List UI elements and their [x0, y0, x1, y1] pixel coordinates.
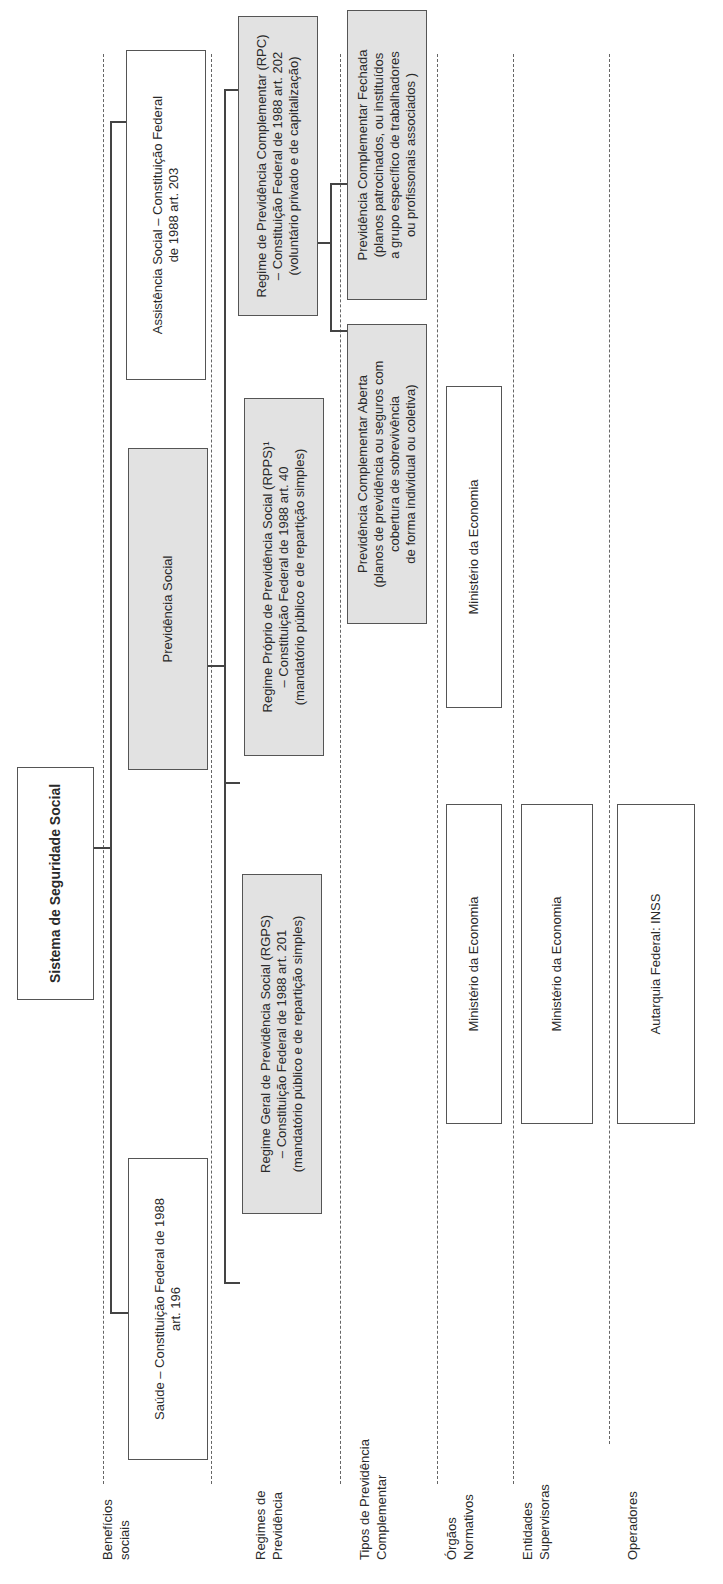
- connector: [110, 122, 126, 124]
- sistema-seguridade-social-box: Sistema de Seguridade Social: [17, 767, 94, 1000]
- connector: [94, 848, 110, 850]
- row-label-tipos: Tipos de Previdência Complementar: [357, 1439, 391, 1560]
- connector: [330, 184, 348, 186]
- entidade-supervisora-rgps: Ministério da Economia: [521, 804, 593, 1124]
- rgps-box: Regime Geral de Previdência Social (RGPS…: [242, 874, 322, 1214]
- rpc-box: Regime de Previdência Complementar (RPC)…: [238, 16, 318, 316]
- separator: [437, 54, 438, 1484]
- row-label-regimes: Regimes de Previdência: [253, 1491, 287, 1560]
- row-label-entidades: Entidades Supervisoras: [520, 1484, 554, 1560]
- previdencia-fechada-box: Previdência Complementar Fechada (planos…: [347, 10, 427, 300]
- row-label-orgaos: Órgãos Normativos: [444, 1494, 478, 1560]
- previdencia-social-box: Previdência Social: [128, 448, 208, 770]
- connector: [110, 122, 112, 1314]
- row-label-beneficios: Benefícios sociais: [100, 1499, 134, 1560]
- rpps-box: Regime Próprio de Previdência Social (RP…: [244, 398, 324, 756]
- row-label-operadores: Operadores: [625, 1491, 642, 1560]
- connector: [224, 90, 226, 1284]
- separator: [211, 54, 212, 1484]
- connector: [224, 1283, 240, 1285]
- connector: [330, 184, 332, 332]
- connector: [318, 243, 330, 245]
- separator: [103, 54, 104, 1484]
- assistencia-social-box: Assistência Social – Constituição Federa…: [126, 50, 206, 380]
- connector: [224, 783, 240, 785]
- separator: [513, 54, 514, 1484]
- separator: [340, 54, 341, 1484]
- saude-box: Saúde – Constituição Federal de 1988 art…: [128, 1158, 208, 1460]
- separator: [609, 54, 610, 1444]
- orgao-normativo-rpps: Ministério da Economia: [446, 386, 502, 708]
- connector: [330, 331, 348, 333]
- connector: [208, 666, 224, 668]
- operador-rgps: Autarquia Federal: INSS: [617, 804, 695, 1124]
- seguridade-social-diagram: Benefícios sociais Regimes de Previdênci…: [0, 0, 723, 1584]
- previdencia-aberta-box: Previdência Complementar Aberta (planos …: [347, 324, 427, 624]
- connector: [110, 1313, 128, 1315]
- orgao-normativo-rgps: Ministério da Economia: [446, 804, 502, 1124]
